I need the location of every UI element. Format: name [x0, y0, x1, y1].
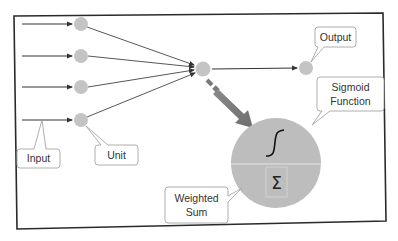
callout-input-label: Input: [27, 152, 50, 164]
neuron-detail-circle: Σ: [231, 118, 321, 208]
callout-weighted-line2: Sum: [186, 206, 208, 218]
diagram-canvas: Σ Input Unit Output Sigmoid Function Wei…: [0, 0, 398, 241]
callout-unit-label: Unit: [107, 149, 126, 161]
input-node-4: [74, 113, 88, 127]
input-node-2: [74, 49, 88, 63]
callout-sigmoid-line2: Function: [330, 95, 370, 107]
output-node: [299, 61, 313, 75]
callout-output-label: Output: [320, 31, 352, 43]
callout-weighted-line1: Weighted: [174, 192, 218, 204]
neuron-diagram: Σ Input Unit Output Sigmoid Function Wei…: [0, 0, 398, 241]
sigma-icon: Σ: [271, 173, 282, 193]
callout-sigmoid-line1: Sigmoid: [332, 81, 370, 93]
input-node-3: [74, 80, 88, 94]
hidden-node: [196, 62, 211, 77]
input-node-1: [74, 17, 88, 31]
